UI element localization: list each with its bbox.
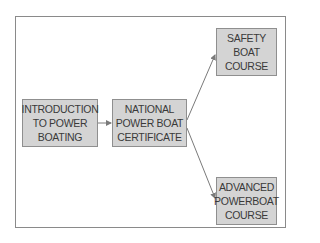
node-advanced-powerboat-course: ADVANCED POWERBOAT COURSE [216,177,277,225]
arrow-national-to-safety [187,55,215,120]
arrow-national-to-advanced [187,128,215,198]
node-national-power-boat-certificate: NATIONAL POWER BOAT CERTIFICATE [112,99,187,147]
node-intro-to-power-boating: INTRODUCTION TO POWER BOATING [22,99,98,147]
node-safety-boat-course: SAFETY BOAT COURSE [216,28,277,76]
node-label: NATIONAL POWER BOAT CERTIFICATE [116,102,183,144]
node-label: ADVANCED POWERBOAT COURSE [214,180,279,222]
node-label: INTRODUCTION TO POWER BOATING [22,102,99,144]
node-label: SAFETY BOAT COURSE [225,31,268,73]
